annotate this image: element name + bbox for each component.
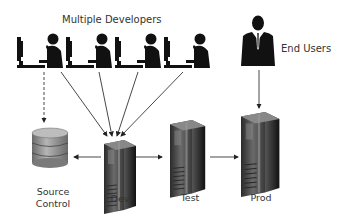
database-icon [32, 128, 68, 168]
multiple-developers-label: Multiple Developers [62, 14, 162, 26]
developer-icon-4 [164, 34, 210, 69]
developer-icon-1 [17, 34, 63, 69]
prod-label: Prod [244, 192, 278, 204]
source-control-label: Source Control [33, 186, 73, 210]
server-icon-prod [241, 112, 279, 197]
server-icon-test [170, 120, 205, 198]
end-users-label: End Users [281, 43, 331, 55]
businessman-icon [241, 16, 275, 67]
developer-icon-2 [66, 34, 112, 69]
arrow-dev2-to-dev [99, 72, 112, 136]
dev-label: Dev [107, 193, 133, 205]
developer-icon-3 [115, 34, 161, 69]
arrow-dev3-to-dev [117, 72, 138, 136]
arrow-dev1-to-dev [61, 72, 107, 136]
test-label: Test [175, 192, 205, 204]
